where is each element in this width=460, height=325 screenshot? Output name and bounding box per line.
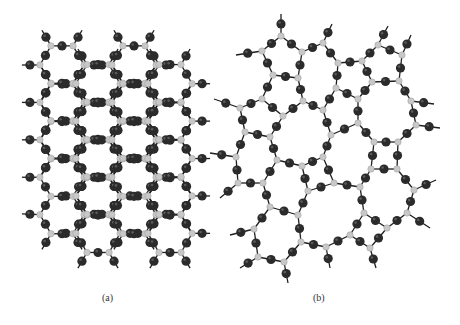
atom-highlight [184, 203, 187, 206]
bridging-atom [182, 182, 191, 191]
network-atom [320, 40, 326, 46]
network-atom [328, 132, 334, 138]
atom-highlight [310, 159, 313, 162]
atom-highlight [325, 30, 328, 33]
network-atom [259, 96, 265, 102]
bridging-atom [74, 51, 83, 60]
atom-highlight [334, 73, 337, 76]
network-atom [120, 231, 126, 237]
bridging-atom [288, 247, 297, 256]
network-atom [323, 244, 329, 250]
bridging-atom [262, 190, 271, 199]
atom-highlight [238, 142, 241, 145]
network-atom [384, 225, 390, 231]
bridging-atom [263, 82, 272, 91]
atom-highlight [297, 62, 300, 65]
network-atom [408, 98, 414, 104]
atom-highlight [240, 117, 243, 120]
bridging-atom [371, 216, 380, 225]
bridging-atom [93, 248, 102, 257]
network-atom [48, 80, 54, 86]
network-atom [156, 174, 162, 180]
atom-highlight [43, 222, 46, 225]
network-atom [156, 61, 162, 67]
bridging-atom [113, 51, 122, 60]
atom-highlight [253, 240, 256, 243]
network-atom [255, 254, 261, 260]
bridging-atom [41, 33, 50, 42]
bridging-atom [287, 39, 296, 48]
atom-highlight [115, 90, 118, 93]
atom-highlight [395, 153, 398, 156]
atom-highlight [151, 146, 154, 149]
network-atom [106, 249, 112, 255]
bridging-atom [409, 108, 418, 117]
network-atom [84, 136, 90, 142]
bridging-atom [217, 150, 226, 159]
atom-highlight [131, 155, 134, 158]
atom-highlight [75, 35, 78, 38]
bridging-atom [25, 210, 34, 219]
atom-highlight [328, 50, 331, 53]
bridging-atom [244, 258, 253, 267]
bridging-atom [365, 48, 374, 57]
network-atom [109, 137, 115, 143]
bridging-atom [149, 70, 158, 79]
network-atom [48, 43, 54, 49]
bridging-atom [361, 173, 370, 182]
bridging-atom [77, 182, 86, 191]
atom-highlight [199, 118, 202, 121]
bridging-atom [197, 191, 206, 200]
bridging-atom [77, 70, 86, 79]
atom-highlight [112, 240, 115, 243]
atom-highlight [115, 203, 118, 206]
atom-highlight [357, 239, 360, 242]
bridging-atom [333, 236, 342, 245]
bridging-atom [113, 33, 122, 42]
atom-highlight [383, 139, 386, 142]
atom-highlight [184, 109, 187, 112]
bridging-atom [113, 201, 122, 210]
bridging-atom [41, 182, 50, 191]
atom-highlight [248, 101, 251, 104]
network-atom [320, 107, 326, 113]
atom-highlight [219, 152, 222, 155]
bridging-atom [288, 104, 297, 113]
network-atom [84, 99, 90, 105]
bridging-atom [77, 107, 86, 116]
bridging-atom [263, 58, 272, 67]
network-atom [156, 136, 162, 142]
atom-highlight [131, 81, 134, 84]
bridging-atom [276, 19, 285, 28]
atom-highlight [43, 35, 46, 38]
network-atom [37, 211, 43, 217]
atom-highlight [199, 231, 202, 234]
bridging-atom [93, 210, 102, 219]
atom-highlight [131, 231, 134, 234]
bridging-atom [266, 255, 275, 264]
network-atom [189, 230, 195, 236]
atom-highlight [311, 242, 314, 245]
atom-highlight [79, 221, 82, 224]
bridging-atom [149, 257, 158, 266]
bridging-atom [145, 33, 154, 42]
atom-highlight [184, 91, 187, 94]
atom-highlight [403, 177, 406, 180]
bridging-atom [352, 219, 361, 228]
atom-highlight [223, 100, 226, 103]
atom-highlight [59, 81, 62, 84]
atom-highlight [79, 128, 82, 131]
bridging-atom [422, 180, 431, 189]
network-atom [375, 42, 381, 48]
network-atom [48, 118, 54, 124]
network-atom [361, 210, 367, 216]
atom-highlight [271, 146, 274, 149]
bridging-atom [197, 117, 206, 126]
network-atom [37, 137, 43, 143]
atom-highlight [183, 53, 186, 56]
bridging-atom [182, 219, 191, 228]
bridging-atom [165, 172, 174, 181]
atom-highlight [404, 131, 407, 134]
network-atom [355, 96, 361, 102]
network-atom [357, 184, 363, 190]
